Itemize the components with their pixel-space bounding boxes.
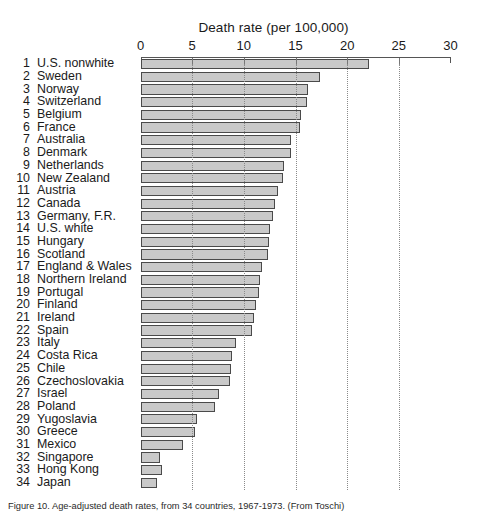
figure-caption: Figure 10. Age-adjusted death rates, fro… <box>8 500 470 514</box>
list-item: 13Germany, F.R. <box>0 209 137 222</box>
x-tick-label-0: 0 <box>137 38 144 53</box>
bar-14 <box>141 224 270 234</box>
bar-34 <box>141 478 158 488</box>
bar-3 <box>141 84 308 94</box>
list-item: 4Switzerland <box>0 95 137 108</box>
bar-4 <box>141 97 307 107</box>
list-item: 10New Zealand <box>0 171 137 184</box>
list-item: 6France <box>0 120 137 133</box>
bar-12 <box>141 199 275 209</box>
list-item: 14U.S. white <box>0 222 137 235</box>
bar-31 <box>141 440 183 450</box>
list-item: 29Yugoslavia <box>0 412 137 425</box>
list-item: 12Canada <box>0 197 137 210</box>
x-tick-label-25: 25 <box>392 38 406 53</box>
list-item: 28Poland <box>0 400 137 413</box>
bar-16 <box>141 249 268 259</box>
chart-title: Death rate (per 100,000) <box>0 20 477 35</box>
x-tick-label-30: 30 <box>443 38 457 53</box>
gridline-15 <box>296 64 297 490</box>
list-item: 21Ireland <box>0 311 137 324</box>
bar-22 <box>141 325 253 335</box>
list-item: 19Portugal <box>0 285 137 298</box>
category-labels: 1U.S. nonwhite2Sweden3Norway4Switzerland… <box>0 57 137 490</box>
bar-32 <box>141 452 161 462</box>
bar-29 <box>141 414 198 424</box>
x-tick-label-10: 10 <box>237 38 251 53</box>
bar-15 <box>141 237 269 247</box>
list-item: 5Belgium <box>0 108 137 121</box>
bar-33 <box>141 465 163 475</box>
bar-28 <box>141 402 215 412</box>
bar-18 <box>141 275 261 285</box>
bar-2 <box>141 72 321 82</box>
list-item: 22Spain <box>0 323 137 336</box>
list-item: 8Denmark <box>0 146 137 159</box>
list-item: 7Australia <box>0 133 137 146</box>
bar-20 <box>141 300 257 310</box>
bar-11 <box>141 186 278 196</box>
bar-9 <box>141 161 285 171</box>
bar-7 <box>141 135 292 145</box>
bar-8 <box>141 148 292 158</box>
list-item: 34Japan <box>0 476 137 489</box>
list-item: 24Costa Rica <box>0 349 137 362</box>
list-item: 11Austria <box>0 184 137 197</box>
list-item: 15Hungary <box>0 235 137 248</box>
bar-25 <box>141 364 232 374</box>
bar-26 <box>141 376 231 386</box>
list-item: 17England & Wales <box>0 260 137 273</box>
category-rank: 34 <box>0 475 37 489</box>
list-item: 20Finland <box>0 298 137 311</box>
x-axis-tick-labels: 051015202530 <box>141 38 451 55</box>
x-tick-label-15: 15 <box>288 38 302 53</box>
list-item: 26Czechoslovakia <box>0 374 137 387</box>
list-item: 31Mexico <box>0 438 137 451</box>
list-item: 2Sweden <box>0 70 137 83</box>
bar-30 <box>141 427 196 437</box>
bar-1 <box>141 59 369 69</box>
bar-10 <box>141 173 284 183</box>
plot-area <box>141 57 451 490</box>
gridline-5 <box>192 64 193 490</box>
list-item: 1U.S. nonwhite <box>0 57 137 70</box>
bar-chart: Death rate (per 100,000) 051015202530 1U… <box>0 0 477 514</box>
list-item: 33Hong Kong <box>0 463 137 476</box>
x-tick-label-20: 20 <box>340 38 354 53</box>
category-name: Japan <box>37 475 137 489</box>
bar-21 <box>141 313 255 323</box>
gridline-25 <box>399 64 400 490</box>
list-item: 18Northern Ireland <box>0 273 137 286</box>
bar-23 <box>141 338 236 348</box>
list-item: 16Scotland <box>0 247 137 260</box>
bar-13 <box>141 211 273 221</box>
list-item: 9Netherlands <box>0 159 137 172</box>
x-tick-label-5: 5 <box>189 38 196 53</box>
bar-24 <box>141 351 233 361</box>
list-item: 30Greece <box>0 425 137 438</box>
bar-5 <box>141 110 301 120</box>
gridline-10 <box>244 64 245 490</box>
list-item: 27Israel <box>0 387 137 400</box>
gridline-20 <box>347 64 348 490</box>
bar-27 <box>141 389 220 399</box>
list-item: 25Chile <box>0 362 137 375</box>
list-item: 3Norway <box>0 82 137 95</box>
list-item: 32Singapore <box>0 450 137 463</box>
bar-6 <box>141 122 300 132</box>
bar-19 <box>141 287 260 297</box>
list-item: 23Italy <box>0 336 137 349</box>
